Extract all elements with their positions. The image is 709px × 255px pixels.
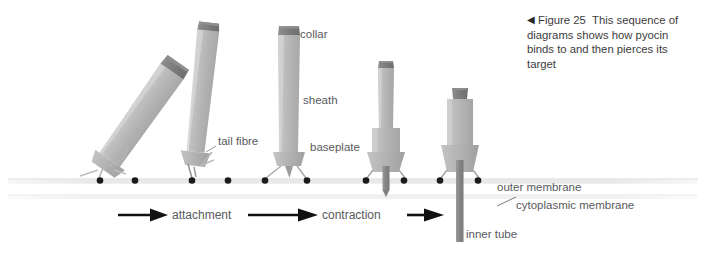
- receptor-dot: [304, 177, 311, 184]
- receptor-dot: [262, 177, 269, 184]
- caption-figure-number: Figure 25: [538, 14, 586, 26]
- label-collar: collar: [300, 28, 327, 41]
- caption-marker-icon: ◀: [527, 14, 535, 25]
- receptor-dot: [225, 177, 232, 184]
- label-baseplate: baseplate: [310, 141, 360, 154]
- pyocin-stage-3: [266, 26, 306, 178]
- receptor-dot: [401, 177, 408, 184]
- label-inner-tube: inner tube: [466, 228, 517, 241]
- arrow-attachment: [118, 209, 168, 222]
- process-label-attachment: attachment: [172, 208, 231, 222]
- figure-caption: ◀Figure 25 This sequence of diagrams sho…: [527, 13, 692, 71]
- receptor-dot: [437, 177, 444, 184]
- outer-membrane-band: [8, 179, 698, 184]
- pyocin-stage-5: [441, 88, 479, 242]
- label-tail-fibre: tail fibre: [218, 135, 258, 148]
- arrow-contraction: [248, 209, 318, 222]
- arrow-penetration: [407, 209, 444, 222]
- process-label-contraction: contraction: [322, 208, 381, 222]
- receptor-dot: [475, 177, 482, 184]
- receptor-dot: [132, 177, 139, 184]
- pyocin-stage-4: [367, 61, 405, 197]
- label-cytoplasmic-membrane: cytoplasmic membrane: [516, 199, 634, 212]
- pyocin-stage-1: [80, 52, 193, 180]
- pyocin-stage-2: [179, 21, 224, 178]
- label-sheath: sheath: [303, 94, 338, 107]
- receptor-dot: [363, 177, 370, 184]
- figure-canvas: collar sheath baseplate tail fibre outer…: [0, 0, 709, 255]
- leader-line-tail-fibre: [206, 146, 216, 152]
- receptor-dot: [189, 177, 196, 184]
- receptor-dot: [97, 177, 104, 184]
- label-outer-membrane: outer membrane: [497, 181, 581, 194]
